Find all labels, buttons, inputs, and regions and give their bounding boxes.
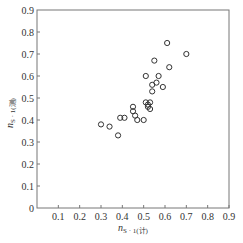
data-point-marker <box>160 84 165 89</box>
y-tick-label: 0 <box>29 203 34 214</box>
y-tick-label: 0.7 <box>22 49 35 60</box>
y-tick-label: 0.2 <box>22 159 35 170</box>
x-axis-label: nS · 1(计) <box>118 222 149 235</box>
data-point-marker <box>98 122 103 127</box>
y-tick-label: 0.9 <box>22 5 35 16</box>
x-tick-label: 0.8 <box>201 211 214 222</box>
data-point-marker <box>156 73 161 78</box>
data-point-marker <box>152 58 157 63</box>
x-axis-ticks: 0.10.20.30.40.50.60.70.80.9 <box>52 205 235 222</box>
data-point-marker <box>115 133 120 138</box>
data-point-marker <box>143 73 148 78</box>
y-axis-label: nS · 1(测) <box>4 97 17 128</box>
y-tick-label: 0.5 <box>22 93 35 104</box>
y-tick-label: 0.4 <box>22 115 35 126</box>
data-point-marker <box>107 124 112 129</box>
data-point-marker <box>141 117 146 122</box>
x-tick-label: 0.2 <box>73 211 86 222</box>
data-point-marker <box>184 51 189 56</box>
x-tick-label: 0.4 <box>116 211 129 222</box>
data-point-marker <box>154 80 159 85</box>
x-tick-label: 0.5 <box>137 211 150 222</box>
data-point-marker <box>135 117 140 122</box>
x-tick-label: 0.9 <box>223 211 236 222</box>
data-point-marker <box>167 65 172 70</box>
y-tick-label: 0.1 <box>22 181 35 192</box>
y-tick-label: 0.3 <box>22 137 35 148</box>
x-tick-label: 0.7 <box>180 211 193 222</box>
x-tick-label: 0.6 <box>159 211 172 222</box>
y-tick-label: 0.6 <box>22 71 35 82</box>
y-tick-label: 0.8 <box>22 27 35 38</box>
data-points <box>98 40 189 138</box>
x-tick-label: 0.3 <box>95 211 108 222</box>
data-point-marker <box>150 89 155 94</box>
scatter-chart: 0.10.20.30.40.50.60.70.80.9 00.10.20.30.… <box>0 0 243 243</box>
data-point-marker <box>165 40 170 45</box>
x-tick-label: 0.1 <box>52 211 65 222</box>
